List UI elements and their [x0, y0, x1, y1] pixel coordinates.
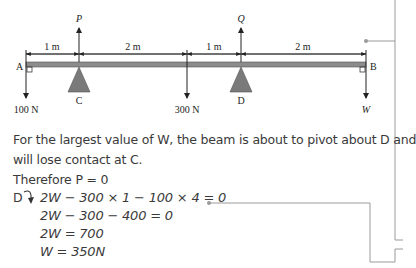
- annotation-dot-icon: [364, 39, 368, 43]
- point-label-d: D: [237, 95, 244, 106]
- beam: [26, 62, 366, 67]
- equation-line-1: 2W − 300 × 1 − 100 × 4 = 0: [40, 190, 226, 205]
- point-label-c: C: [76, 95, 83, 106]
- right-angle-icon: [27, 67, 32, 72]
- force-label-q: Q: [237, 13, 245, 24]
- explanation-line-1: For the largest value of W, the beam is …: [13, 132, 416, 147]
- moment-arrowhead-icon: [28, 197, 34, 204]
- dimension-label: 1 m: [44, 41, 60, 52]
- dimension-label: 2 m: [125, 41, 141, 52]
- moment-point-label: D: [13, 190, 22, 205]
- equation-line-3: 2W = 700: [40, 226, 104, 241]
- therefore-statement: Therefore P = 0: [13, 172, 108, 187]
- point-label-a: A: [16, 61, 24, 72]
- equation-line-4: W = 350N: [40, 244, 105, 259]
- force-label-100n: 100 N: [14, 104, 39, 115]
- explanation-line-2: will lose contact at C.: [13, 152, 142, 167]
- point-label-b: B: [370, 61, 377, 72]
- force-label-w: W: [362, 104, 372, 115]
- support-c-icon: [68, 67, 90, 92]
- dimension-label: 1 m: [206, 41, 222, 52]
- force-label-300n: 300 N: [175, 104, 200, 115]
- dimension-label: 2 m: [295, 41, 311, 52]
- support-d-icon: [230, 67, 252, 92]
- force-label-p: P: [75, 13, 82, 24]
- right-angle-icon: [360, 67, 365, 72]
- equation-line-2: 2W − 300 − 400 = 0: [40, 208, 173, 223]
- annotation-connectors: [210, 0, 403, 262]
